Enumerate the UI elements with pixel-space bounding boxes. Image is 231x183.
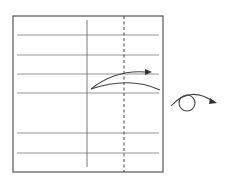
folding-diagram	[0, 0, 231, 183]
paper-square	[13, 16, 163, 172]
turn-over-icon	[171, 94, 217, 111]
